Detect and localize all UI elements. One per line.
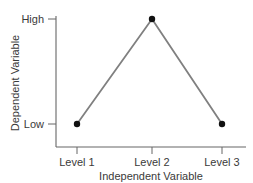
data-point-level-2 [149,16,155,22]
chart-figure: Dependent Variable High Low Level 1 Leve… [0,0,253,183]
data-line [77,19,222,124]
data-point-level-3 [219,121,225,127]
x-tick-label-level-3: Level 3 [204,156,239,168]
data-point-level-1 [74,121,80,127]
y-tick-label-high: High [21,13,44,25]
x-axis-label: Independent Variable [99,170,203,182]
y-tick-label-low: Low [24,118,44,130]
x-tick-label-level-2: Level 2 [134,156,169,168]
x-tick-label-level-1: Level 1 [59,156,94,168]
line-chart-plot: Dependent Variable High Low Level 1 Leve… [0,0,253,183]
y-axis-label: Dependent Variable [9,35,21,131]
